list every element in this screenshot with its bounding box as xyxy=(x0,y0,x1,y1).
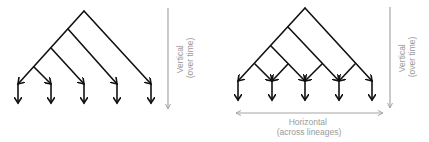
left-vertical-axis: Vertical (over time) xyxy=(168,8,195,109)
left-vertical-axis-label: Vertical (over time) xyxy=(175,38,195,79)
horizontal-axis-label: Horizontal (across lineages) xyxy=(277,117,342,137)
right-horizontal-axis: Horizontal (across lineages) xyxy=(236,113,383,137)
right-vertical-axis-label: Vertical (over time) xyxy=(397,37,417,78)
right-vertical-axis: Vertical (over time) xyxy=(390,7,417,108)
right-tree xyxy=(238,8,372,100)
left-tree xyxy=(18,11,151,103)
